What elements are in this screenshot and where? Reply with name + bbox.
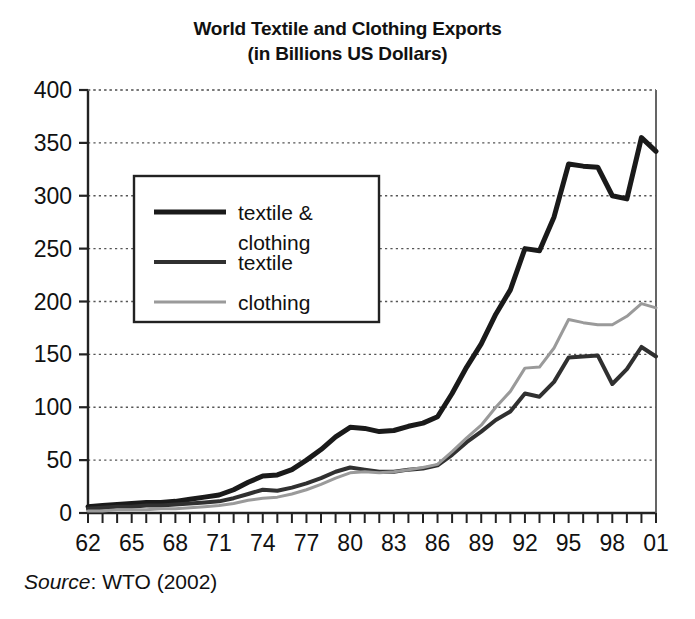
- y-tick-label-300: 300: [34, 183, 72, 209]
- x-tick-label-80: 80: [337, 530, 363, 556]
- x-tick-label-65: 65: [119, 530, 145, 556]
- x-axis-tick-labels: 6265687174778083868992959801: [75, 530, 669, 556]
- x-tick-label-68: 68: [163, 530, 189, 556]
- source-separator: :: [91, 570, 103, 593]
- source-label: Source: [24, 570, 91, 593]
- x-tick-label-92: 92: [512, 530, 538, 556]
- x-tick-label-62: 62: [75, 530, 101, 556]
- x-tick-label-98: 98: [600, 530, 626, 556]
- legend-label-textile-clothing: textile &: [238, 201, 313, 224]
- legend-label-clothing: clothing: [238, 291, 310, 314]
- x-tick-label-86: 86: [425, 530, 451, 556]
- chart-figure: World Textile and Clothing Exports (in B…: [0, 0, 695, 619]
- x-axis-ticks-group: [88, 513, 656, 523]
- y-tick-label-150: 150: [34, 341, 72, 367]
- x-tick-label-71: 71: [206, 530, 232, 556]
- source-value: WTO (2002): [102, 570, 217, 593]
- chart-legend: textile &clothingtextileclothing: [134, 176, 379, 322]
- x-tick-label-95: 95: [556, 530, 582, 556]
- line-chart-plot: 050100150200250300350400 626568717477808…: [0, 0, 695, 619]
- y-tick-label-250: 250: [34, 236, 72, 262]
- source-note: Source: WTO (2002): [24, 570, 217, 594]
- x-tick-label-77: 77: [294, 530, 320, 556]
- y-tick-label-350: 350: [34, 130, 72, 156]
- x-tick-label-89: 89: [468, 530, 494, 556]
- x-tick-label-01: 01: [643, 530, 669, 556]
- x-tick-label-83: 83: [381, 530, 407, 556]
- legend-label-textile: textile: [238, 251, 293, 274]
- y-axis-ticks-group: [79, 90, 88, 513]
- y-tick-label-100: 100: [34, 394, 72, 420]
- y-tick-label-50: 50: [46, 447, 72, 473]
- y-tick-label-0: 0: [59, 500, 72, 526]
- y-tick-label-200: 200: [34, 289, 72, 315]
- y-axis-tick-labels: 050100150200250300350400: [34, 77, 72, 526]
- y-tick-label-400: 400: [34, 77, 72, 103]
- x-tick-label-74: 74: [250, 530, 276, 556]
